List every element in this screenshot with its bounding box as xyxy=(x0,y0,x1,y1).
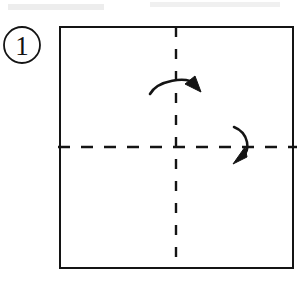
scan-artifact-group xyxy=(8,2,280,10)
origami-step-diagram: 1 xyxy=(0,0,308,287)
scan-smudge-top-right xyxy=(150,2,280,7)
step-number-label: 1 xyxy=(15,31,29,61)
step-number-badge: 1 xyxy=(4,27,40,63)
diagram-canvas: 1 xyxy=(0,0,308,287)
scan-smudge-top-left xyxy=(8,4,104,10)
